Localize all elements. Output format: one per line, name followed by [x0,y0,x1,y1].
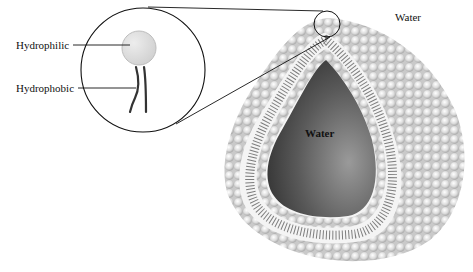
magnifier-large-circle [81,8,205,132]
outer-water-label: Water [395,12,421,23]
inner-water-label: Water [305,128,334,139]
connector-line-top [148,7,323,11]
liposome-diagram [0,0,473,272]
hydrophobic-label: Hydrophobic [16,83,74,94]
hydrophilic-label: Hydrophilic [16,40,69,51]
hydrophilic-head [122,31,156,65]
